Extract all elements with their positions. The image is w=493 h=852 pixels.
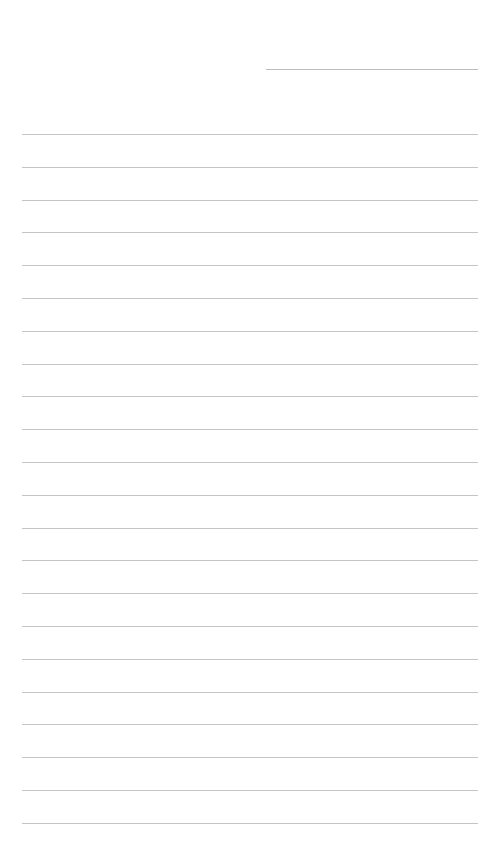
ruled-line xyxy=(22,593,478,594)
ruled-line xyxy=(22,134,478,135)
ruled-line xyxy=(22,331,478,332)
ruled-line xyxy=(22,757,478,758)
ruled-line xyxy=(22,659,478,660)
ruled-line xyxy=(22,528,478,529)
ruled-line xyxy=(22,200,478,201)
ruled-line xyxy=(22,495,478,496)
ruled-line xyxy=(22,265,478,266)
ruled-line xyxy=(22,364,478,365)
ruled-line xyxy=(22,790,478,791)
ruled-line xyxy=(22,692,478,693)
ruled-line xyxy=(22,462,478,463)
ruled-line xyxy=(22,626,478,627)
ruled-line xyxy=(22,232,478,233)
ruled-line xyxy=(22,396,478,397)
ruled-line xyxy=(22,823,478,824)
ruled-line xyxy=(22,298,478,299)
ruled-line xyxy=(22,429,478,430)
ruled-line xyxy=(22,167,478,168)
ruled-line xyxy=(22,560,478,561)
ruled-line xyxy=(22,724,478,725)
header-date-line xyxy=(266,69,478,70)
